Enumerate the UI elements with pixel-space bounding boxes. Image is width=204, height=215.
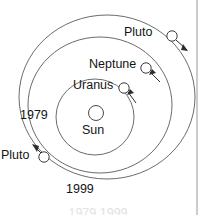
sun-label: Sun (82, 124, 104, 137)
year-label-1999: 1999 (66, 183, 94, 196)
pluto-marker-lower (39, 152, 49, 162)
neptune-marker (141, 63, 151, 73)
pluto-marker-outer (167, 31, 177, 41)
pluto-lower-arrow-head (32, 144, 39, 152)
clipped-caption: 1979 1999 (0, 206, 196, 215)
uranus-label: Uranus (73, 79, 113, 92)
orbital-diagram: Pluto Neptune Uranus Sun 1979 Pluto 1999… (0, 0, 204, 215)
neptune-label: Neptune (89, 58, 136, 71)
sun-marker (89, 106, 104, 121)
uranus-marker (119, 83, 129, 93)
pluto-label-lower: Pluto (1, 149, 30, 162)
pluto-label-outer: Pluto (124, 26, 153, 39)
year-label-1979: 1979 (20, 109, 48, 122)
